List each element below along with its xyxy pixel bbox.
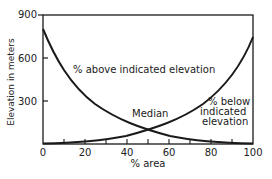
annotation-below-3: elevation	[202, 116, 248, 127]
elevation-area-chart: 900 600 300 0 20 40 60 80 100 Elevation …	[0, 0, 272, 179]
x-tick-80: 80	[205, 147, 218, 158]
x-tick-100: 100	[243, 147, 262, 158]
y-tick-600: 600	[18, 53, 37, 64]
x-tick-0: 0	[40, 147, 46, 158]
y-tick-300: 300	[18, 96, 37, 107]
y-axis-label: Elevation in meters	[6, 38, 16, 126]
x-tick-40: 40	[121, 147, 134, 158]
curve-below	[43, 37, 253, 144]
annotation-above: % above indicated elevation	[73, 64, 215, 75]
y-tick-900: 900	[18, 9, 37, 20]
x-tick-20: 20	[79, 147, 92, 158]
x-axis-label: % area	[131, 158, 166, 169]
annotation-median: Median	[132, 108, 168, 119]
x-tick-60: 60	[163, 147, 176, 158]
